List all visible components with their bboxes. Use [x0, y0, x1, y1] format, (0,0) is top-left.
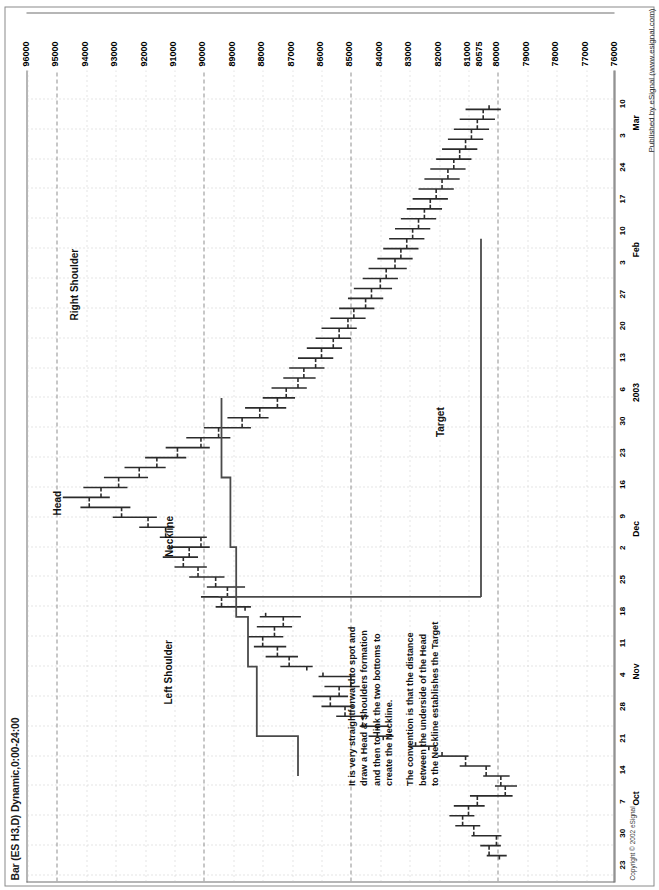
y-axis[interactable]: 9600095000940009300092000910009000089000… — [26, 12, 614, 70]
x-axis-tick: 11 — [617, 638, 626, 646]
x-axis-tick: 28 — [617, 702, 626, 711]
x-axis-tick: 3 — [617, 260, 626, 264]
x-axis-tick: 16 — [617, 479, 626, 488]
y-axis-tick: 95000 — [50, 10, 59, 66]
x-axis-month-label: Dec — [630, 521, 640, 537]
x-axis-tick: 18 — [617, 606, 626, 615]
x-axis-tick: 2 — [617, 545, 626, 549]
x-axis-tick: 17 — [617, 194, 626, 203]
x-axis-tick: 24 — [617, 162, 626, 171]
x-axis-tick: 3 — [617, 133, 626, 137]
x-axis-month-label: Feb — [630, 242, 640, 257]
x-axis-month-label: Oct — [630, 791, 640, 805]
y-axis-tick: 96000 — [21, 10, 30, 66]
screenshot-page: Bar (ES H3,D) Dynamic,0:00-24:00 Copyrig… — [0, 0, 659, 890]
y-axis-tick: 93000 — [109, 10, 118, 66]
y-axis-tick: 86000 — [315, 10, 324, 66]
y-axis-tick: 77000 — [580, 10, 589, 66]
x-axis-tick: 30 — [617, 828, 626, 837]
note-target-convention: The convention is that the distance betw… — [403, 621, 441, 785]
x-axis-tick: 10 — [617, 99, 626, 108]
x-axis-tick: 27 — [617, 289, 626, 298]
x-axis-tick: 6 — [617, 387, 626, 391]
x-axis-tick: 21 — [617, 733, 626, 742]
x-axis-tick: 9 — [617, 513, 626, 517]
x-axis-tick: 23 — [617, 860, 626, 869]
x-axis-month-label: Nov — [630, 663, 640, 679]
y-axis-tick: 94000 — [80, 10, 89, 66]
y-axis-tick: 90000 — [197, 10, 206, 66]
plot-canvas[interactable]: Left Shoulder Head Right Shoulder Neckli… — [26, 70, 614, 882]
y-axis-tick: 76000 — [609, 10, 618, 66]
y-axis-tick: 88000 — [256, 10, 265, 66]
y-axis-tick: 82000 — [433, 10, 442, 66]
y-axis-tick: 92000 — [139, 10, 148, 66]
y-axis-tick: 87000 — [286, 10, 295, 66]
x-axis-tick: 25 — [617, 575, 626, 584]
y-axis-tick: 89000 — [227, 10, 236, 66]
x-axis-tick: 7 — [617, 799, 626, 803]
y-axis-tick: 84000 — [374, 10, 383, 66]
x-axis-tick: 20 — [617, 321, 626, 330]
y-axis-tick: 78000 — [550, 10, 559, 66]
x-axis-tick: 13 — [617, 353, 626, 362]
x-axis-tick: 4 — [617, 672, 626, 676]
y-axis-tick: 80000 — [491, 10, 500, 66]
y-axis-tick: 91000 — [168, 10, 177, 66]
y-axis-tick: 80575 — [474, 10, 483, 66]
y-axis-tick: 83000 — [403, 10, 412, 66]
x-axis-tick: 10 — [617, 226, 626, 235]
x-axis-tick: 30 — [617, 416, 626, 425]
overlay-layer — [27, 70, 614, 881]
y-axis-tick: 85000 — [344, 10, 353, 66]
rotated-chart-canvas: Bar (ES H3,D) Dynamic,0:00-24:00 Copyrig… — [0, 0, 659, 890]
x-axis[interactable]: 2330714212841118252916233061320273101724… — [614, 70, 648, 882]
x-axis-month-label: 2003 — [630, 382, 640, 401]
y-axis-tick: 79000 — [521, 10, 530, 66]
plot-area[interactable]: Left Shoulder Head Right Shoulder Neckli… — [26, 70, 614, 882]
x-axis-month-label: Mar — [630, 115, 640, 130]
x-axis-tick: 14 — [617, 765, 626, 774]
note-head-shoulders-description: It is very straightforward to spot and d… — [345, 626, 395, 785]
chart-title: Bar (ES H3,D) Dynamic,0:00-24:00 — [8, 717, 20, 880]
y-axis-tick: 81000 — [462, 10, 471, 66]
x-axis-tick: 23 — [617, 448, 626, 457]
